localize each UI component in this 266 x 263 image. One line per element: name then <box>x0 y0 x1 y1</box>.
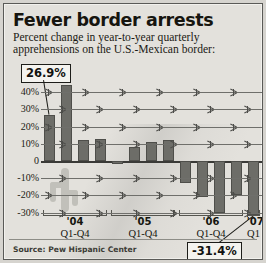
bar <box>146 142 157 161</box>
barbed-wire-barb <box>207 106 214 113</box>
graphic-page: Fewer border arrests Percent change in y… <box>0 0 266 263</box>
barbed-wire-barb <box>244 175 251 182</box>
x-axis-year-label: '07 <box>247 216 261 227</box>
barbed-wire-barb <box>119 89 126 96</box>
barbed-wire-barb <box>96 210 103 217</box>
gridline <box>41 109 262 110</box>
y-axis: 40%30%20%10%0-10%-20%-30% <box>4 87 39 209</box>
barbed-wire-barb <box>156 192 163 199</box>
gridline <box>41 213 262 214</box>
barbed-wire-barb <box>133 210 140 217</box>
y-tick-label: 0 <box>6 155 39 166</box>
barbed-wire-barb <box>45 192 52 199</box>
barbed-wire-barb <box>170 106 177 113</box>
barbed-wire-barb <box>244 106 251 113</box>
y-tick-label: -30% <box>6 207 39 218</box>
bar <box>248 161 259 215</box>
barbed-wire-barb <box>59 141 66 148</box>
x-axis-quarter-label: Q1 <box>247 228 261 239</box>
y-tick-label: 20% <box>6 121 39 132</box>
y-tick-label: -20% <box>6 189 39 200</box>
x-axis-year-label: '05 <box>111 216 176 227</box>
source-label: Source: Pew Hispanic Center <box>13 245 136 254</box>
y-tick-label: 30% <box>6 103 39 114</box>
barbed-wire-barb <box>193 192 200 199</box>
barbed-wire-barb <box>59 210 66 217</box>
barbed-wire-barb <box>82 89 89 96</box>
chart-subtitle: Percent change in year-to-year quarterly… <box>13 32 254 57</box>
x-axis-quarter-label: Q1-Q4 <box>43 228 108 239</box>
barbed-wire-barb <box>244 210 251 217</box>
graphic-frame: Fewer border arrests Percent change in y… <box>3 3 263 260</box>
barbed-wire-barb <box>82 124 89 131</box>
y-tick-label: -10% <box>6 172 39 183</box>
bar <box>44 115 55 161</box>
bar <box>129 147 140 161</box>
barbed-wire-barb <box>207 141 214 148</box>
barbed-wire-barb <box>119 124 126 131</box>
gridline <box>41 195 262 196</box>
barbed-wire-barb <box>230 192 237 199</box>
source-divider <box>9 239 257 240</box>
callout-low: -31.4% <box>187 242 242 260</box>
barbed-wire-barb <box>96 175 103 182</box>
barbed-wire-barb <box>230 89 237 96</box>
y-tick-label: 40% <box>6 86 39 97</box>
barbed-wire-barb <box>45 124 52 131</box>
page-title: Fewer border arrests <box>13 10 256 30</box>
bar <box>180 161 191 183</box>
bar <box>112 161 123 164</box>
barbed-wire-barb <box>193 124 200 131</box>
barbed-wire-barb <box>244 141 251 148</box>
barbed-wire-barb <box>207 210 214 217</box>
gridline <box>41 178 262 179</box>
barbed-wire-barb <box>133 106 140 113</box>
x-axis-quarter-label: Q1-Q4 <box>111 228 176 239</box>
chart-plot-negative <box>41 161 262 208</box>
barbed-wire-barb <box>170 175 177 182</box>
barbed-wire-barb <box>193 89 200 96</box>
barbed-wire-barb <box>207 175 214 182</box>
barbed-wire-barb <box>170 210 177 217</box>
barbed-wire-barb <box>82 192 89 199</box>
gridline <box>41 144 262 145</box>
barbed-wire-barb <box>170 141 177 148</box>
x-axis-quarter-label: Q1-Q4 <box>179 228 244 239</box>
barbed-wire-barb <box>133 175 140 182</box>
barbed-wire-barb <box>133 141 140 148</box>
gridline <box>41 92 262 93</box>
barbed-wire-barb <box>156 89 163 96</box>
barbed-wire-barb <box>45 89 52 96</box>
y-tick-label: 10% <box>6 138 39 149</box>
bar <box>214 161 225 213</box>
x-axis-year-label: '04 <box>43 216 108 227</box>
barbed-wire-barb <box>96 106 103 113</box>
gridline <box>41 127 262 128</box>
x-axis-year-label: '06 <box>179 216 244 227</box>
bar <box>61 85 72 161</box>
barbed-wire-barb <box>119 192 126 199</box>
barbed-wire-barb <box>59 175 66 182</box>
barbed-wire-barb <box>156 124 163 131</box>
barbed-wire-barb <box>59 106 66 113</box>
callout-high: 26.9% <box>21 64 71 83</box>
barbed-wire-barb <box>96 141 103 148</box>
barbed-wire-barb <box>230 124 237 131</box>
